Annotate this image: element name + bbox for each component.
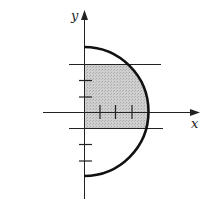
x-axis-arrow-icon: [190, 109, 200, 116]
y-axis-label: y: [70, 8, 79, 23]
x-axis-label: x: [191, 116, 199, 131]
diagram: x y: [0, 0, 210, 215]
y-axis-arrow-icon: [81, 10, 88, 20]
